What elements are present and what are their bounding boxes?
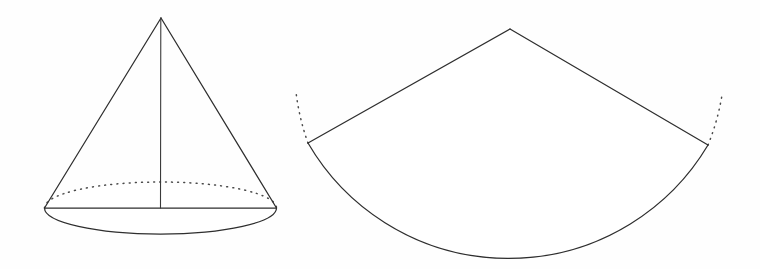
cone-slant-edge-left: [45, 18, 162, 208]
cone-slant-edge-right: [161, 18, 277, 208]
cone-figure: [45, 18, 277, 234]
sector-dotted-arc-left: [296, 92, 308, 143]
sector-figure: [296, 29, 722, 258]
sector-fill: [308, 29, 708, 258]
figure-canvas: [0, 0, 760, 269]
sector-dotted-arc-right: [708, 95, 722, 145]
geometry-figure: [0, 0, 760, 269]
